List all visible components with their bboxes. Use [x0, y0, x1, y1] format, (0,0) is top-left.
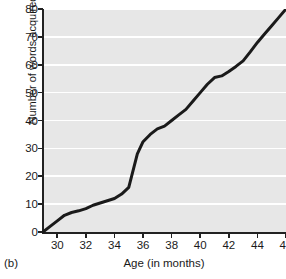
x-axis-tick-mark: [257, 233, 259, 238]
x-axis-tick-mark: [171, 233, 173, 238]
x-axis-tick-mark: [56, 233, 58, 238]
y-axis-tick-label: 0: [16, 227, 38, 237]
x-axis-tick-label: 46: [273, 239, 286, 252]
x-axis-tick-mark: [142, 233, 144, 238]
series-path: [43, 9, 286, 232]
y-axis-tick-label: 10: [16, 199, 38, 209]
y-axis-tick-label: 60: [16, 60, 38, 70]
x-axis-tick-label: 32: [73, 239, 99, 252]
x-axis-tick-mark: [114, 233, 116, 238]
plot-area: [42, 9, 286, 233]
y-axis-tick-label: 40: [16, 116, 38, 126]
x-axis-tick-mark: [85, 233, 87, 238]
panel-letter: (b): [4, 256, 18, 270]
x-axis-tick-label: 42: [216, 239, 242, 252]
x-axis-tick-mark: [285, 233, 286, 238]
x-axis-tick-label: 30: [44, 239, 70, 252]
x-axis-tick-label: 44: [244, 239, 270, 252]
y-axis-tick-labels: 01020304050607080: [14, 0, 38, 279]
y-axis-tick-label: 30: [16, 143, 38, 153]
x-axis-tick-label: 36: [130, 239, 156, 252]
x-axis-tick-mark: [199, 233, 201, 238]
x-axis-tick-labels: 303234363840424446: [42, 239, 286, 255]
chart-figure: Number of words acquired 010203040506070…: [0, 0, 286, 279]
x-axis-title: Age (in months): [42, 256, 286, 270]
x-axis-tick-mark: [228, 233, 230, 238]
x-axis-tick-label: 38: [159, 239, 185, 252]
x-axis-tick-label: 34: [101, 239, 127, 252]
data-series-line: [42, 9, 286, 233]
y-axis-tick-label: 50: [16, 88, 38, 98]
y-axis-tick-label: 20: [16, 171, 38, 181]
x-axis-tick-label: 40: [187, 239, 213, 252]
y-axis-tick-label: 70: [16, 32, 38, 42]
y-axis-tick-label: 80: [16, 4, 38, 14]
